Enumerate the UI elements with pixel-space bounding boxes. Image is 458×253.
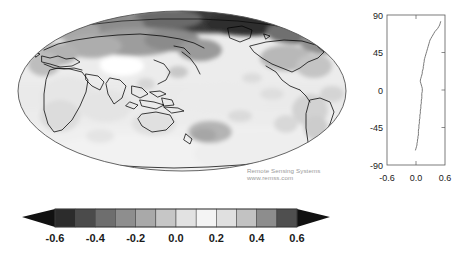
colorbar-cell [257, 209, 277, 227]
colorbar-ticklabel: 0.4 [249, 232, 265, 244]
colorbar-cell [196, 209, 216, 227]
xtick-00: 0.0 [410, 173, 423, 183]
colorbar-ticklabel: -0.6 [46, 232, 65, 244]
global-anomaly-map [14, 6, 350, 176]
ytick-m90: -90 [370, 161, 383, 171]
xtick-06: 0.6 [439, 173, 452, 183]
ytick-45: 45 [373, 48, 383, 58]
colorbar-ticklabel: -0.2 [126, 232, 145, 244]
colorbar-ticklabel: 0.2 [209, 232, 224, 244]
colorbar-cell [75, 209, 95, 227]
zonal-y-ticklabels: 90 45 0 -45 -90 [370, 11, 383, 171]
colorbar-cell [136, 209, 156, 227]
zonal-plot-frame [387, 15, 445, 165]
xtick-m06: -0.6 [379, 173, 395, 183]
colorbar-ticklabel: 0.0 [168, 232, 183, 244]
zonal-x-ticklabels: -0.6 0.0 0.6 [379, 173, 451, 183]
credit-line-1: Remote Sensing Systems [247, 167, 320, 174]
colorbar-cell [95, 209, 115, 227]
colorbar-over-arrow [297, 209, 330, 227]
colorbar-cell [277, 209, 297, 227]
colorbar-cells [55, 209, 297, 227]
map-svg [14, 6, 350, 176]
colorbar-ticklabel: -0.4 [86, 232, 106, 244]
figure-canvas: Remote Sensing Systems www.remss.com 90 … [0, 0, 458, 253]
colorbar-ticklabels: -0.6-0.4-0.20.00.20.40.6 [46, 232, 305, 244]
credit-line-2: www.remss.com [247, 174, 320, 181]
colorbar-cell [156, 209, 176, 227]
map-anomaly-blobs [14, 7, 350, 176]
colorbar-ticklabel: 0.6 [289, 232, 304, 244]
ytick-m45: -45 [370, 123, 383, 133]
colorbar-cell [237, 209, 257, 227]
colorbar-cell [55, 209, 75, 227]
colorbar-cell [116, 209, 136, 227]
ytick-0: 0 [378, 86, 383, 96]
credit-block: Remote Sensing Systems www.remss.com [247, 167, 320, 182]
zonal-mean-profile: 90 45 0 -45 -90 -0.6 0.0 0.6 [358, 4, 456, 189]
colorbar-cell [216, 209, 236, 227]
map-field [14, 6, 350, 176]
colorbar-under-arrow [22, 209, 55, 227]
colorbar-cell [176, 209, 196, 227]
colorbar-svg: -0.6-0.4-0.20.00.20.40.6 [16, 203, 336, 249]
ytick-90: 90 [373, 11, 383, 21]
colorbar: -0.6-0.4-0.20.00.20.40.6 [16, 203, 336, 249]
zonal-svg: 90 45 0 -45 -90 -0.6 0.0 0.6 [358, 4, 456, 189]
